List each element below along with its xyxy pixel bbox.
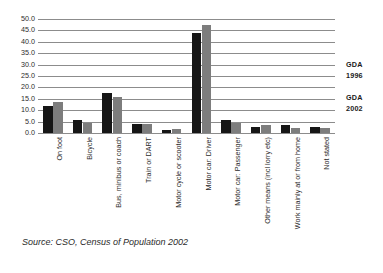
- y-axis-tick-label: 0.0: [0, 129, 35, 136]
- x-axis-tick-label: Other means (incl lorry etc): [264, 137, 272, 224]
- bar: [281, 125, 291, 133]
- bar: [102, 93, 112, 133]
- bar: [231, 123, 241, 133]
- bar-group: [251, 19, 271, 133]
- y-axis-tick-label: 20.0: [0, 84, 35, 91]
- y-axis-tick-label: 15.0: [0, 95, 35, 102]
- x-axis-tick-label: Motor cycle or scooter: [175, 137, 183, 208]
- legend-entry: GDA1996: [346, 60, 383, 81]
- bar-group: [162, 19, 182, 133]
- bar: [310, 127, 320, 133]
- chart-legend: GDA1996GDA2002: [346, 60, 383, 126]
- bar-group: [73, 19, 93, 133]
- plot-area: 50.045.040.035.030.025.020.015.010.05.00…: [38, 19, 335, 133]
- y-axis-tick-label: 50.0: [0, 15, 35, 22]
- bar: [142, 124, 152, 133]
- legend-entry-label: GDA: [346, 60, 383, 71]
- bar: [202, 25, 212, 133]
- legend-entry-label: GDA: [346, 93, 383, 104]
- legend-entry: GDA2002: [346, 93, 383, 114]
- bar: [261, 125, 271, 133]
- bar-group: [281, 19, 301, 133]
- legend-entry-year: 1996: [346, 71, 383, 82]
- y-axis-tick-label: 45.0: [0, 27, 35, 34]
- legend-entry-year: 2002: [346, 104, 383, 115]
- x-axis-tick-label: Train or DART: [145, 137, 153, 183]
- bar: [113, 97, 123, 133]
- bar: [251, 127, 261, 133]
- y-axis-tick-label: 5.0: [0, 118, 35, 125]
- axis-baseline: [38, 133, 335, 134]
- y-axis-tick-label: 35.0: [0, 50, 35, 57]
- bar: [43, 106, 53, 133]
- bar: [83, 123, 93, 133]
- bar: [53, 102, 63, 133]
- source-note: Source: CSO, Census of Population 2002: [22, 237, 188, 247]
- x-axis-tick-label: Not stated: [323, 137, 331, 170]
- bar-group: [43, 19, 63, 133]
- bar: [192, 33, 202, 133]
- bar: [320, 128, 330, 133]
- bar: [162, 130, 172, 133]
- y-axis-tick-label: 25.0: [0, 72, 35, 79]
- y-axis-tick-label: 30.0: [0, 61, 35, 68]
- bar-group: [221, 19, 241, 133]
- x-axis-tick-label: Motor car: Driver: [205, 137, 213, 191]
- x-axis-tick-label: Work mainly at or from home: [294, 137, 302, 229]
- x-axis-tick-label: On foot: [56, 137, 64, 161]
- bar-group: [192, 19, 212, 133]
- bar: [291, 128, 301, 133]
- bar-group: [102, 19, 122, 133]
- bar: [221, 120, 231, 133]
- y-axis-tick-label: 10.0: [0, 107, 35, 114]
- bar: [73, 120, 83, 133]
- x-axis-tick-label: Bus, minibus or coach: [115, 137, 123, 208]
- bar-group: [310, 19, 330, 133]
- bar: [172, 129, 182, 133]
- bar-chart-figure: 50.045.040.035.030.025.020.015.010.05.00…: [0, 0, 383, 273]
- bar: [132, 124, 142, 133]
- x-axis-tick-label: Bicycle: [86, 137, 94, 160]
- bar-group: [132, 19, 152, 133]
- y-axis-tick-label: 40.0: [0, 38, 35, 45]
- x-axis-tick-label: Motor car: Passenger: [234, 137, 242, 206]
